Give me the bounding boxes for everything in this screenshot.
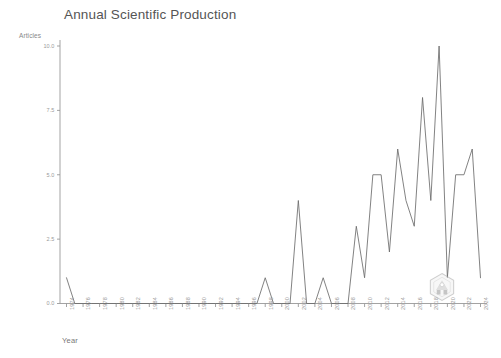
x-axis-tick-label: 1994 [235,296,241,309]
x-axis-tick-label: 2024 [483,296,489,309]
y-axis-tick-label: 2.5 [31,236,55,242]
x-axis-tick-label: 1984 [152,296,158,309]
x-axis-tick-label: 2016 [417,296,423,309]
x-axis-tick-label: 2008 [350,296,356,309]
x-axis-tick-label: 1978 [102,296,108,309]
x-axis-tick-label: 1992 [218,296,224,309]
axes-group [57,40,487,307]
x-axis-tick-label: 1988 [185,296,191,309]
x-axis-tick-label: 2014 [400,296,406,309]
data-series-group [67,46,481,304]
logo-watermark-icon [427,272,457,302]
x-axis-tick-label: 2006 [334,296,340,309]
x-axis-tick-label: 2000 [284,296,290,309]
y-axis-tick-label: 7.5 [31,107,55,113]
x-axis-tick-label: 2012 [384,296,390,309]
y-axis-tick-label: 0.0 [31,300,55,306]
x-axis-tick-label: 1986 [168,296,174,309]
x-axis-tick-label: 2004 [317,296,323,309]
x-axis-tick-label: 1996 [251,296,257,309]
x-axis-tick-label: 1982 [135,296,141,309]
y-axis-tick-label: 5.0 [31,172,55,178]
x-axis-tick-label: 2022 [466,296,472,309]
x-axis-tick-label: 1974 [69,296,75,309]
x-axis-tick-label: 2002 [301,296,307,309]
x-axis-tick-label: 1976 [85,296,91,309]
x-axis-tick-label: 1980 [119,296,125,309]
annual-scientific-production-chart: Annual Scientific Production Articles Ye… [0,0,501,358]
y-axis-tick-label: 10.0 [31,43,55,49]
x-axis-tick-label: 1990 [201,296,207,309]
x-axis-tick-label: 2010 [367,296,373,309]
x-axis-tick-label: 1998 [268,296,274,309]
